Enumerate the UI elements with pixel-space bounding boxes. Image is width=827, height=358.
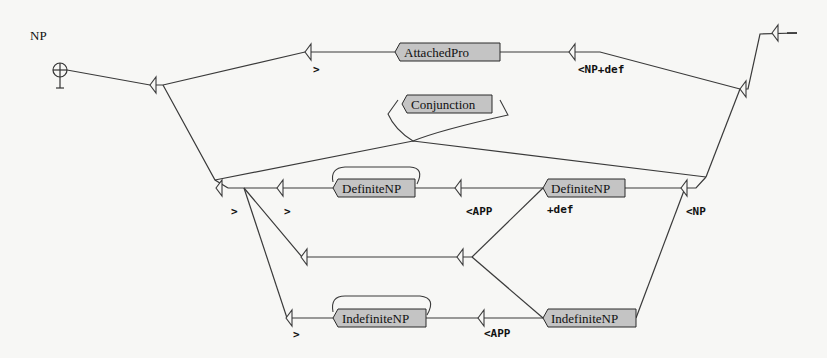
- svg-text:IndefiniteNP: IndefiniteNP: [342, 311, 409, 326]
- node-indefinitenp-1[interactable]: IndefiniteNP: [333, 309, 426, 327]
- svg-text:AttachedPro: AttachedPro: [404, 45, 469, 60]
- output-gt-top: >: [313, 63, 320, 76]
- output-np-def: <NP+def: [578, 63, 624, 76]
- node-definitenp-2[interactable]: DefiniteNP: [543, 179, 625, 197]
- svg-text:DefiniteNP: DefiniteNP: [551, 181, 610, 196]
- svg-text:Conjunction: Conjunction: [411, 97, 476, 112]
- edges: [67, 33, 797, 318]
- node-conjunction[interactable]: Conjunction: [402, 95, 492, 113]
- output-np: <NP: [686, 205, 706, 218]
- output-gt-mid2: >: [284, 205, 291, 218]
- grammar-graph: NP: [0, 0, 827, 358]
- output-gt-bot: >: [293, 328, 300, 341]
- output-app-bot: <APP: [484, 327, 511, 340]
- output-gt-mid1: >: [231, 205, 238, 218]
- node-definitenp-1[interactable]: DefiniteNP: [333, 179, 415, 197]
- arrow-markers: [150, 25, 778, 326]
- output-def: +def: [547, 203, 574, 216]
- node-attachedpro[interactable]: AttachedPro: [395, 43, 500, 61]
- initial-state-icon[interactable]: [53, 63, 67, 88]
- node-indefinitenp-2[interactable]: IndefiniteNP: [543, 309, 636, 327]
- svg-text:IndefiniteNP: IndefiniteNP: [551, 311, 618, 326]
- output-app-mid: <APP: [466, 205, 493, 218]
- graph-title: NP: [30, 28, 47, 43]
- svg-text:DefiniteNP: DefiniteNP: [342, 181, 401, 196]
